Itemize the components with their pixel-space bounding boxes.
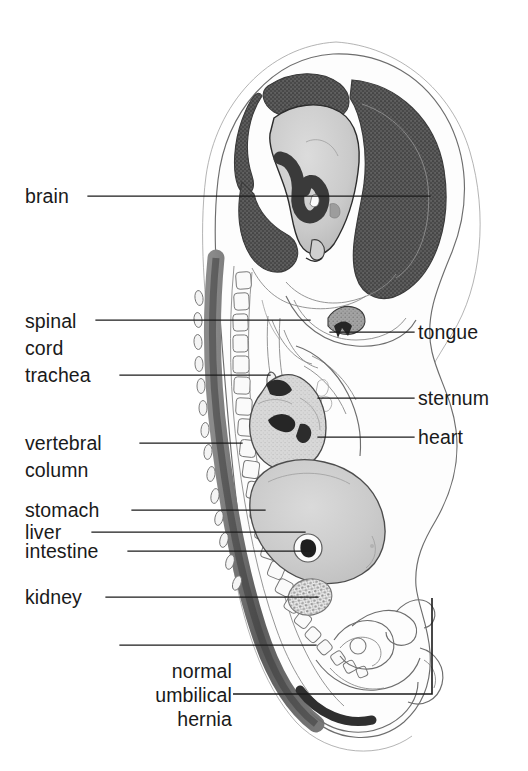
label-intestine: intestine: [25, 540, 99, 562]
label-hernia: hernia: [177, 708, 232, 730]
label-umbilical: umbilical: [155, 684, 232, 706]
liver-vessel: [370, 544, 374, 548]
intestine-structure: [294, 534, 322, 562]
label-brain: brain: [25, 185, 69, 207]
label-kidney: kidney: [25, 586, 82, 608]
anatomy-illustration: brain spinal cord trachea vertebral colu…: [0, 0, 528, 771]
label-trachea: trachea: [25, 364, 91, 386]
label-tongue: tongue: [418, 321, 478, 343]
label-column: column: [25, 459, 88, 481]
label-vertebral: vertebral: [25, 432, 102, 454]
umbilical-cord-vessel: [350, 638, 366, 654]
label-spinal: spinal: [25, 310, 77, 332]
label-heart: heart: [418, 426, 463, 448]
embryo-anatomy-figure: brain spinal cord trachea vertebral colu…: [0, 0, 528, 771]
label-normal: normal: [172, 660, 232, 682]
label-cord: cord: [25, 337, 63, 359]
label-sternum: sternum: [418, 387, 489, 409]
label-stomach: stomach: [25, 499, 99, 521]
